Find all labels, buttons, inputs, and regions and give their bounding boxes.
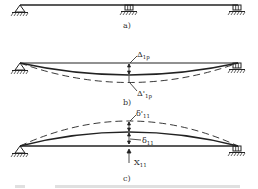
panel-a-label: a) xyxy=(123,21,131,30)
delta-prime-11-label: δ'11 xyxy=(136,109,150,119)
panel-a: a) xyxy=(11,5,245,30)
roller-support-right xyxy=(228,5,245,15)
force-x11-label: X11 xyxy=(134,158,147,168)
delta-11-label: δ11 xyxy=(142,136,154,146)
roller-support-right-c xyxy=(228,146,245,156)
panel-c-label: c) xyxy=(123,174,131,183)
roller-support-middle xyxy=(120,5,137,15)
pin-support-left-c xyxy=(11,146,28,157)
figure-caption-faint xyxy=(15,185,240,188)
panel-b-label: b) xyxy=(123,98,131,107)
delta-prime-1p-label: Δ'1p xyxy=(137,89,152,100)
pin-support-left xyxy=(11,5,28,16)
panel-c: δ'11 δ11 X11 c) xyxy=(11,109,245,183)
delta-1p-label: Δ1p xyxy=(137,50,150,61)
beam-diagram: a) Δ1p Δ'1p b) xyxy=(0,0,258,189)
panel-b: Δ1p Δ'1p b) xyxy=(11,50,245,107)
